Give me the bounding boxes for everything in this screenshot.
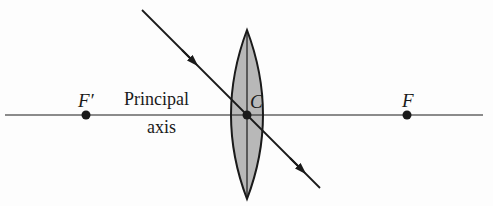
principal-axis-label-line2: axis bbox=[147, 118, 176, 136]
lens-diagram: F′ F C Principal axis bbox=[0, 0, 493, 206]
focal-point-left-dot bbox=[82, 111, 91, 120]
principal-axis-label-line1: Principal bbox=[124, 90, 189, 108]
optical-center-label: C bbox=[250, 92, 263, 111]
ray-arrow-incoming-icon bbox=[182, 50, 194, 62]
focal-point-right-label: F bbox=[402, 91, 414, 110]
ray-arrow-outgoing-icon bbox=[290, 158, 302, 170]
diagram-canvas bbox=[0, 0, 493, 206]
focal-point-right-dot bbox=[403, 111, 412, 120]
focal-point-left-label: F′ bbox=[78, 91, 94, 110]
